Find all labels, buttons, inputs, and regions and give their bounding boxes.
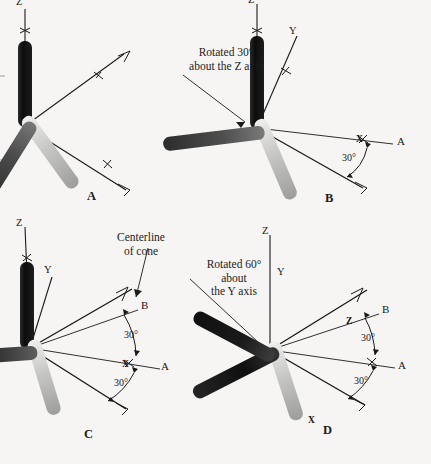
panel-c-caption: C xyxy=(84,427,93,442)
panel-a: Z A xyxy=(0,0,215,215)
panel-a-z-axis-label: Z xyxy=(16,0,22,7)
panel-b-ray-a xyxy=(257,128,393,144)
panel-b-y-axis-label: Y xyxy=(289,25,297,36)
panel-d-z-rod-label: Z xyxy=(346,316,352,326)
panel-c-angle-upper-label: 30° xyxy=(124,329,138,340)
panel-a-drawing xyxy=(0,0,215,215)
panel-c-z-axis-label: Z xyxy=(16,217,22,228)
panel-c-rod-x xyxy=(0,346,38,367)
panel-b-z-axis-label: Z xyxy=(248,0,254,5)
panel-d-note: Rotated 60° about the Y axis xyxy=(182,258,286,299)
panel-c-ray-b xyxy=(30,310,138,348)
panel-d-angle-upper-label: 30° xyxy=(361,332,375,343)
figure-four-panel-axis-rotation: Z A xyxy=(0,0,431,464)
panel-d-caption: D xyxy=(323,423,332,438)
panel-d-angle-lower-label: 30° xyxy=(354,375,368,386)
panel-d-ray-a-label: A xyxy=(398,359,406,371)
panel-b-drawing xyxy=(215,0,431,215)
panel-c-x-axis-label: X xyxy=(122,359,129,369)
panel-c-y-axis-label: Y xyxy=(44,264,52,275)
panel-d-z-axis-top-label: Z xyxy=(262,225,268,236)
panel-c-ray-b-label: B xyxy=(141,299,148,311)
panel-c-ray-a xyxy=(30,348,160,369)
panel-b-angle-label: 30° xyxy=(342,152,356,163)
panel-d: Z Y Z X B A 30° 30° D xyxy=(215,215,431,464)
panel-b-caption: B xyxy=(325,191,334,206)
panel-b-ray-a-label: A xyxy=(397,135,405,147)
panel-c-note: Centerline of cone xyxy=(96,231,186,258)
panel-c-angle-lower-label: 30° xyxy=(114,377,128,388)
panel-c-rod-z xyxy=(20,262,34,349)
panel-a-cropped-edge-marks xyxy=(0,76,5,160)
panel-a-caption: A xyxy=(87,189,96,204)
panel-b-note: Rotated 30° about the Z axis xyxy=(168,46,284,73)
panel-b-x-axis-label: X xyxy=(356,134,363,144)
panel-a-rod-x xyxy=(0,119,39,199)
panel-b: Z Y X A 30° B xyxy=(215,0,431,215)
panel-a-y-axis-line xyxy=(25,51,130,126)
panel-d-x-axis-label: X xyxy=(308,415,315,425)
panel-a-rod-z xyxy=(18,41,32,127)
panel-c-ray-a-label: A xyxy=(161,360,169,372)
panel-d-ray-b-label: B xyxy=(382,303,389,315)
